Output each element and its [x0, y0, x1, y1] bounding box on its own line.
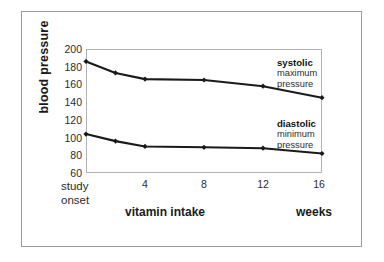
- x-tick-label: 12: [248, 178, 278, 190]
- series-annotation-diastolic: diastolic minimum pressure: [277, 118, 316, 151]
- series-annotation-systolic: systolic maximum pressure: [277, 57, 317, 90]
- x-axis-units-label: weeks: [296, 205, 332, 219]
- x-axis-origin-label: study onset: [61, 180, 119, 207]
- y-tick-label: 80: [52, 150, 82, 160]
- y-tick-label: 160: [52, 79, 82, 89]
- series-desc-systolic-line1: maximum: [277, 68, 317, 79]
- x-tick-label: 16: [304, 178, 334, 190]
- series-desc-diastolic-line2: pressure: [277, 140, 316, 151]
- y-tick-label: 120: [52, 115, 82, 125]
- y-tick-label: 60: [52, 168, 82, 178]
- x-axis-title: vitamin intake: [125, 205, 205, 219]
- y-tick-label: 140: [52, 97, 82, 107]
- origin-label-line1: study: [61, 180, 119, 194]
- y-axis-tick-labels: 200 180 160 140 120 100 80 60: [50, 0, 82, 262]
- y-tick-label: 100: [52, 133, 82, 143]
- y-tick-label: 180: [52, 62, 82, 72]
- x-tick-label: 4: [130, 178, 160, 190]
- series-desc-diastolic-line1: minimum: [277, 129, 316, 140]
- y-tick-label: 200: [52, 44, 82, 54]
- x-tick-label: 8: [189, 178, 219, 190]
- series-name-systolic: systolic: [277, 57, 317, 68]
- series-desc-systolic-line2: pressure: [277, 79, 317, 90]
- origin-label-line2: onset: [61, 194, 119, 208]
- figure-canvas: blood pressure 200 180 160 140 120 100 8…: [0, 0, 384, 262]
- y-axis-title: blood pressure: [37, 7, 51, 127]
- series-name-diastolic: diastolic: [277, 118, 316, 129]
